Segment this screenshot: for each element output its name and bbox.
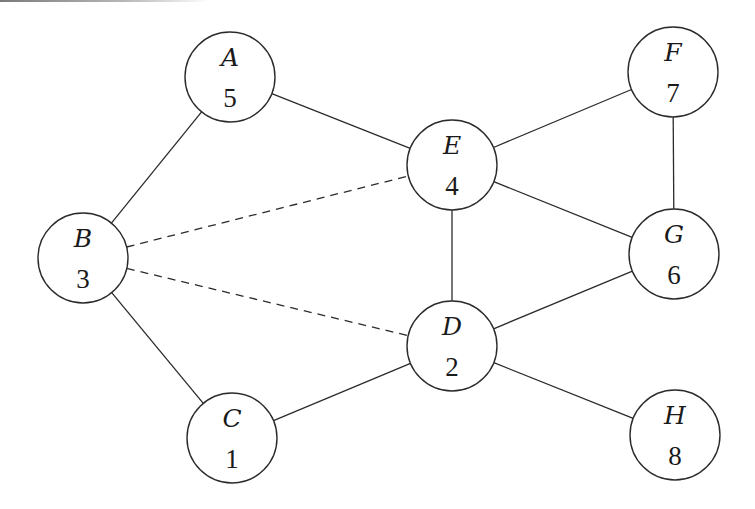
node-label: E [442, 131, 461, 160]
node-g: G6 [629, 209, 719, 299]
edge-b-d [127, 268, 408, 335]
node-label: B [73, 224, 92, 253]
node-value: 8 [668, 441, 682, 471]
edge-c-d [274, 363, 411, 420]
node-value: 7 [666, 78, 680, 108]
edge-e-f [494, 90, 632, 148]
edge-d-g [494, 271, 633, 329]
node-value: 1 [225, 444, 239, 474]
edge-e-g [494, 182, 632, 238]
node-label: G [664, 220, 684, 249]
node-d: D2 [407, 301, 497, 391]
edge-d-h [494, 363, 633, 419]
node-label: F [663, 38, 683, 67]
node-value: 2 [445, 352, 459, 382]
node-label: H [663, 401, 687, 430]
node-value: 5 [223, 83, 237, 113]
node-a: A5 [185, 32, 275, 122]
node-value: 3 [76, 264, 90, 294]
edge-f-g [673, 117, 674, 209]
node-b: B3 [38, 213, 128, 303]
node-f: F7 [628, 27, 718, 117]
edge-a-b [111, 112, 201, 223]
node-h: H8 [630, 390, 720, 480]
edge-b-e [127, 176, 409, 247]
node-value: 4 [445, 171, 459, 201]
graph-svg: A5B3C1D2E4F7G6H8 [0, 0, 755, 509]
node-label: C [222, 404, 241, 433]
edge-a-e [272, 94, 410, 149]
node-label: A [219, 43, 239, 72]
node-e: E4 [407, 120, 497, 210]
graph-diagram: A5B3C1D2E4F7G6H8 [0, 0, 755, 509]
edge-b-c [112, 293, 204, 404]
edges-layer [111, 90, 673, 421]
node-c: C1 [187, 393, 277, 483]
node-value: 6 [667, 260, 681, 290]
node-label: D [441, 312, 462, 341]
